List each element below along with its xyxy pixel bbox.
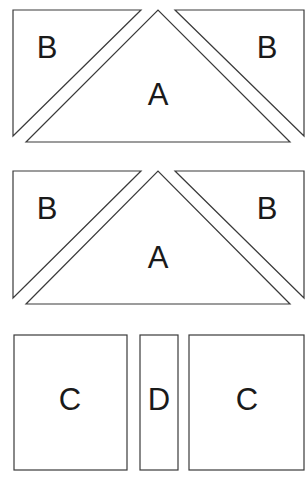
label-b-left: B	[37, 30, 58, 65]
label-c-right: C	[236, 382, 258, 417]
label-b-right: B	[257, 30, 278, 65]
quilt-piece-diagram: B A B B A B C D C	[0, 0, 305, 482]
rectangles-row: C D C	[14, 335, 304, 470]
flying-geese-unit-2: B A B	[13, 171, 304, 304]
label-b-right: B	[257, 191, 278, 226]
flying-geese-unit-1: B A B	[13, 10, 304, 142]
label-d-center: D	[148, 382, 170, 417]
label-b-left: B	[37, 191, 58, 226]
label-c-left: C	[59, 382, 81, 417]
label-a-center: A	[148, 240, 169, 275]
label-a-center: A	[148, 77, 169, 112]
